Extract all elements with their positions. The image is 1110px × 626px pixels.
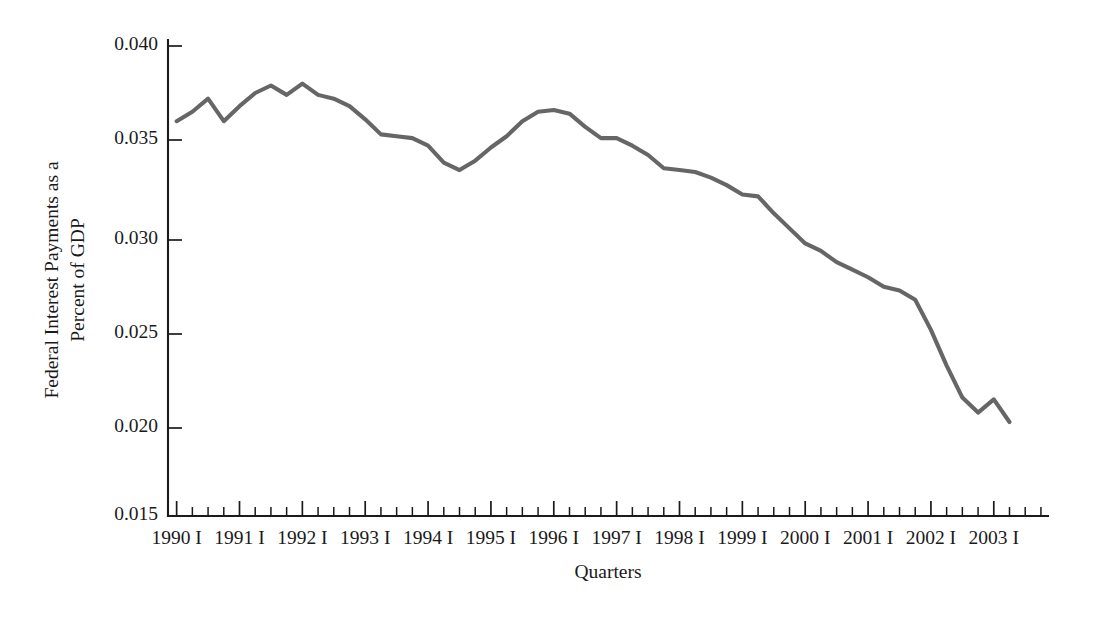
y-axis-title: Federal Interest Payments as a Percent o… [41,161,88,399]
x-tick-label: 2000 I [780,527,830,548]
x-tick-label: 2003 I [969,527,1019,548]
x-axis-tick-labels: 1990 I1991 I1992 I1993 I1994 I1995 I1996… [151,527,1019,548]
y-axis-tick-labels: 0.015 0.020 0.025 0.030 0.035 0.040 [114,33,158,524]
y-tick-label: 0.030 [114,227,158,248]
y-tick-label: 0.025 [114,321,158,342]
x-tick-label: 1994 I [403,527,453,548]
x-tick-label: 1995 I [466,527,516,548]
y-axis-title-line-2: Percent of GDP [67,218,88,342]
x-tick-label: 1993 I [340,527,390,548]
x-tick-label: 2001 I [843,527,893,548]
y-tick-label: 0.040 [114,33,158,54]
x-tick-label: 2002 I [906,527,956,548]
y-tick-label: 0.015 [114,503,158,524]
data-series-line [177,84,1010,422]
x-tick-label: 1996 I [529,527,579,548]
line-chart: Federal Interest Payments as a Percent o… [0,0,1110,626]
x-tick-label: 1992 I [277,527,327,548]
x-tick-label: 1998 I [654,527,704,548]
x-axis-ticks [177,501,1041,516]
y-axis-title-line-1: Federal Interest Payments as a [41,161,62,399]
x-tick-label: 1999 I [717,527,767,548]
x-axis-title: Quarters [574,561,641,582]
y-tick-label: 0.035 [114,127,158,148]
chart-figure: Federal Interest Payments as a Percent o… [0,0,1110,626]
y-tick-label: 0.020 [114,415,158,436]
x-tick-label: 1990 I [151,527,201,548]
x-tick-label: 1997 I [591,527,641,548]
y-axis-ticks [168,46,182,428]
x-tick-label: 1991 I [214,527,264,548]
